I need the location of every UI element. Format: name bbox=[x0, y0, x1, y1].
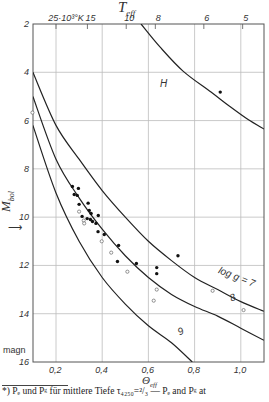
data-point-filled bbox=[86, 201, 89, 204]
data-point-filled bbox=[96, 230, 99, 233]
footnote: *) Pₑ und Pᵍ für mittlere Tiefe τ₄₂₅₀=²/… bbox=[2, 386, 206, 396]
data-point-open bbox=[242, 308, 245, 311]
data-point-filled bbox=[73, 193, 76, 196]
x-tick-label: 1,0 bbox=[234, 365, 247, 375]
y-unit-label: magn bbox=[3, 345, 26, 355]
y-tick-label: 2 bbox=[23, 19, 29, 29]
data-point-filled bbox=[155, 272, 158, 275]
curve-label: H bbox=[160, 78, 168, 89]
data-point-open bbox=[100, 240, 103, 243]
y-tick-label: 4 bbox=[24, 67, 29, 77]
data-point-filled bbox=[80, 215, 83, 218]
data-point-filled bbox=[116, 260, 119, 263]
y-tick-label: 8 bbox=[24, 164, 29, 174]
data-point-filled bbox=[103, 233, 106, 236]
curve-label: log g = 7 bbox=[217, 264, 257, 289]
top-tick-label: 6 bbox=[204, 13, 209, 23]
data-point-filled bbox=[97, 214, 100, 217]
data-point-filled bbox=[94, 222, 97, 225]
x-tick-label: 0,2 bbox=[49, 365, 62, 375]
x-tick-label: 0,4 bbox=[95, 365, 108, 375]
x-tick-label: 0,8 bbox=[188, 365, 201, 375]
y-tick-label: 14 bbox=[19, 309, 29, 319]
y-axis-title: Mbol bbox=[0, 191, 16, 212]
data-point-filled bbox=[117, 244, 120, 247]
data-point-open bbox=[31, 111, 34, 114]
curve-h bbox=[141, 24, 264, 129]
data-point-open bbox=[126, 270, 129, 273]
data-point-open bbox=[78, 210, 81, 213]
y-tick-label: 12 bbox=[19, 260, 29, 270]
y-tick-label: 16 bbox=[19, 357, 29, 367]
data-point-filled bbox=[176, 254, 179, 257]
data-point-filled bbox=[219, 90, 222, 93]
scatter-points bbox=[31, 90, 245, 311]
top-axis-title: Teff bbox=[118, 0, 135, 18]
data-point-filled bbox=[71, 185, 74, 188]
data-point-open bbox=[110, 251, 113, 254]
data-point-open bbox=[155, 288, 158, 291]
top-tick-label: 5 bbox=[243, 13, 249, 23]
data-point-open bbox=[83, 222, 86, 225]
data-point-filled bbox=[85, 217, 88, 220]
top-tick-label: 25·10³°K bbox=[47, 13, 85, 23]
data-point-open bbox=[211, 289, 214, 292]
data-point-filled bbox=[77, 187, 80, 190]
down-arrow-icon: ⟶ bbox=[8, 222, 22, 233]
hr-diagram-chart: Hlog g = 789 0,20,40,60,81,0246810121416… bbox=[0, 0, 269, 402]
top-tick-label: 15 bbox=[85, 13, 96, 23]
data-point-filled bbox=[155, 266, 158, 269]
data-point-filled bbox=[88, 209, 91, 212]
y-tick-label: 6 bbox=[24, 116, 29, 126]
curve-label: 9 bbox=[176, 325, 186, 338]
y-tick-label: 10 bbox=[19, 212, 29, 222]
axis-ticks: 0,20,40,60,81,024681012141625·10³°K15108… bbox=[19, 13, 249, 375]
data-point-filled bbox=[91, 220, 94, 223]
data-point-filled bbox=[135, 262, 138, 265]
top-tick-label: 8 bbox=[156, 13, 161, 23]
curve-label: 8 bbox=[228, 291, 238, 304]
data-point-filled bbox=[89, 212, 92, 215]
data-point-filled bbox=[76, 194, 79, 197]
data-point-open bbox=[152, 299, 155, 302]
grid-lines bbox=[33, 24, 264, 362]
data-point-filled bbox=[77, 203, 80, 206]
